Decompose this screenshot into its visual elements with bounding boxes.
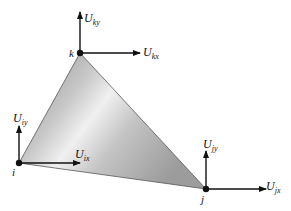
node-k: [77, 50, 83, 56]
triangle-element-diagram: k Uky Ukx i Uiy Uix j Ujy Ujx: [0, 0, 291, 211]
node-k-label: k: [69, 47, 75, 59]
node-j: [203, 186, 209, 192]
label-u-iy: Uiy: [13, 111, 28, 127]
label-u-ky: Uky: [84, 11, 100, 27]
node-i: [16, 160, 22, 166]
label-u-jy: Ujy: [203, 137, 218, 153]
node-j-group: j Ujy Ujx: [199, 137, 281, 205]
node-j-label: j: [199, 193, 204, 205]
node-k-group: k Uky Ukx: [69, 11, 159, 61]
node-i-label: i: [12, 166, 15, 178]
label-u-kx: Ukx: [143, 45, 159, 61]
triangle-element: [19, 53, 206, 189]
label-u-jx: Ujx: [266, 179, 281, 195]
